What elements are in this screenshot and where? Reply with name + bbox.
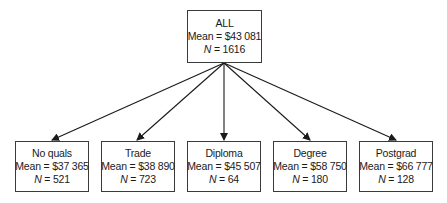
node-label: Postgrad <box>376 147 416 160</box>
node-label: ALL <box>215 17 233 30</box>
child-node-degree: Degree Mean = $58 750 N = 180 <box>273 141 347 192</box>
node-mean: Mean = $66 777 <box>359 160 432 173</box>
node-count: N = 1616 <box>204 43 245 56</box>
node-mean: Mean = $43 081 <box>188 30 261 43</box>
node-count: N = 128 <box>378 173 414 186</box>
arrow-to-postgrad <box>224 63 396 140</box>
child-node-no-quals: No quals Mean = $37 365 N = 521 <box>15 141 89 192</box>
child-node-diploma: Diploma Mean = $45 507 N = 64 <box>187 141 261 192</box>
node-label: Trade <box>125 147 151 160</box>
node-label: No quals <box>32 147 72 160</box>
node-mean: Mean = $58 750 <box>273 160 346 173</box>
node-count: N = 64 <box>209 173 239 186</box>
node-label: Degree <box>293 147 326 160</box>
arrow-to-degree <box>224 63 310 140</box>
node-mean: Mean = $45 507 <box>187 160 260 173</box>
node-mean: Mean = $37 365 <box>15 160 88 173</box>
root-node-all: ALL Mean = $43 081 N = 1616 <box>187 10 262 63</box>
arrow-to-no-quals <box>52 63 224 140</box>
child-node-postgrad: Postgrad Mean = $66 777 N = 128 <box>359 141 433 192</box>
node-count: N = 521 <box>34 173 70 186</box>
node-count: N = 723 <box>120 173 156 186</box>
arrow-to-trade <box>137 63 224 140</box>
child-node-trade: Trade Mean = $38 890 N = 723 <box>101 141 175 192</box>
node-count: N = 180 <box>292 173 328 186</box>
node-mean: Mean = $38 890 <box>101 160 174 173</box>
node-label: Diploma <box>205 147 242 160</box>
